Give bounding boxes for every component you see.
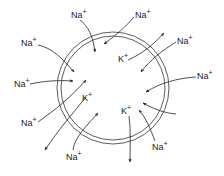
arrow-na-bottom-left-inward <box>73 113 98 150</box>
membrane-inner-circle <box>61 36 165 140</box>
arrow-k-right-outward <box>129 116 130 162</box>
label-na-bottom-left: Na+ <box>66 150 82 162</box>
label-na-right: Na+ <box>197 69 213 81</box>
arrow-na-upper-right-inward <box>141 42 176 72</box>
label-na-top-right: Na+ <box>135 8 151 20</box>
ion-labels: Na+ Na+ Na+ Na+ Na+ Na+ Na+ Na+ Na+ K+ K… <box>14 8 213 162</box>
arrow-na-lower-right-inward <box>143 103 176 114</box>
label-na-upper-right: Na+ <box>177 34 193 46</box>
ion-flux-diagram: Na+ Na+ Na+ Na+ Na+ Na+ Na+ Na+ Na+ K+ K… <box>0 0 224 176</box>
arrow-na-top-right-inward <box>104 17 134 44</box>
arrow-na-left-upper-inward <box>38 45 74 72</box>
arrow-na-lower-left-outward <box>38 80 86 122</box>
arrow-na-right-inward <box>146 77 196 92</box>
label-na-lower-left: Na+ <box>21 116 37 128</box>
arrow-na-left-inward <box>30 81 73 84</box>
label-k-right: K+ <box>121 104 131 116</box>
label-na-left-upper: Na+ <box>21 36 37 48</box>
label-na-left: Na+ <box>14 77 30 89</box>
arrow-k-left-outward <box>45 97 86 150</box>
label-k-upper: K+ <box>118 52 128 64</box>
label-na-bottom-right: Na+ <box>152 140 168 152</box>
label-na-top: Na+ <box>71 8 87 20</box>
label-k-left: K+ <box>82 91 92 103</box>
